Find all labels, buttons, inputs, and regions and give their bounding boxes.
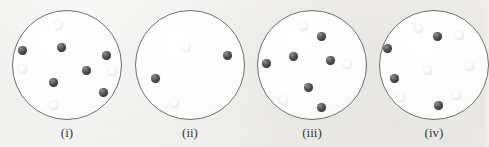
light-sphere — [49, 101, 58, 110]
dark-sphere — [49, 78, 58, 87]
panel-label-2: (ii) — [150, 125, 230, 141]
dark-sphere — [223, 51, 232, 60]
light-sphere — [182, 43, 191, 52]
light-sphere — [54, 21, 63, 30]
dark-sphere — [99, 88, 108, 97]
light-sphere — [299, 22, 308, 31]
dark-sphere — [326, 56, 335, 65]
dark-sphere — [434, 101, 443, 110]
dark-sphere — [317, 103, 326, 112]
dark-sphere — [57, 43, 66, 52]
light-sphere — [465, 62, 474, 71]
container-circle-2 — [135, 10, 245, 120]
dark-sphere — [390, 74, 399, 83]
panel-label-3: (iii) — [272, 125, 352, 141]
dark-sphere — [102, 51, 111, 60]
panel-label-1: (i) — [27, 125, 107, 141]
light-sphere — [396, 93, 405, 102]
dark-sphere — [151, 74, 160, 83]
light-sphere — [170, 99, 179, 108]
light-sphere — [414, 24, 423, 33]
light-sphere — [279, 96, 288, 105]
dark-sphere — [289, 52, 298, 61]
dark-sphere — [383, 44, 392, 53]
container-circle-1 — [12, 10, 122, 120]
light-sphere — [423, 66, 432, 75]
dark-sphere — [18, 46, 27, 55]
dark-sphere — [433, 32, 442, 41]
panel-label-4: (iv) — [394, 125, 474, 141]
light-sphere — [18, 65, 27, 74]
dark-sphere — [82, 66, 91, 75]
dark-sphere — [262, 59, 271, 68]
dark-sphere — [304, 83, 313, 92]
dark-sphere — [317, 32, 326, 41]
light-sphere — [452, 91, 461, 100]
light-sphere — [455, 31, 464, 40]
light-sphere — [108, 67, 117, 76]
light-sphere — [343, 60, 352, 69]
